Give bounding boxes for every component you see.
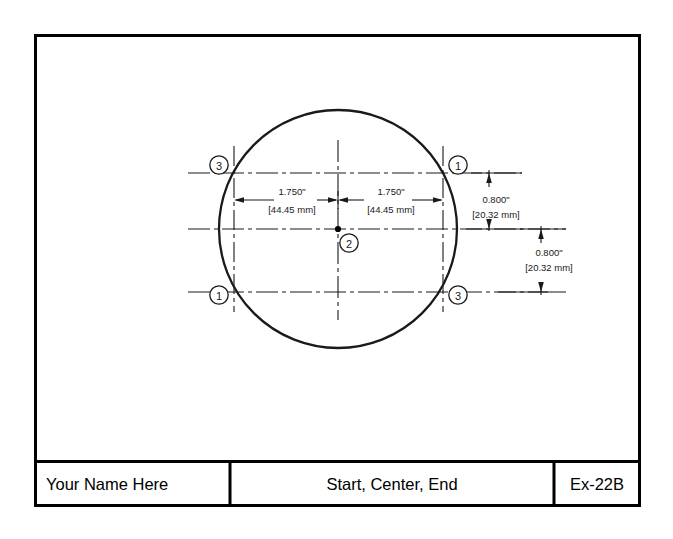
callout-top-right-label: 1 [455, 160, 461, 172]
callout-bottom-left: 1 [210, 286, 228, 304]
callout-top-left: 3 [210, 156, 228, 174]
callout-bottom-right-label: 3 [455, 290, 461, 302]
dim-lower-inch-label: 0.800" [535, 247, 562, 258]
callout-bottom-left-label: 1 [216, 290, 222, 302]
dim-left-inch-label: 1.750" [278, 186, 305, 197]
callout-center: 2 [340, 234, 358, 252]
callout-top-left-label: 3 [216, 160, 222, 172]
title-block-drawing-number-field: Ex-22B [570, 475, 624, 493]
title-block-description-field: Start, Center, End [326, 475, 457, 493]
dim-right-inch-label: 1.750" [377, 186, 404, 197]
dim-left-metric-label: [44.45 mm] [268, 204, 316, 215]
dim-right-metric-label: [44.45 mm] [367, 204, 415, 215]
callout-top-right: 1 [449, 156, 467, 174]
center-point-marker [335, 226, 341, 232]
callout-bottom-right: 3 [449, 286, 467, 304]
dim-upper-inch-label: 0.800" [482, 194, 509, 205]
dim-upper-metric-label: [20.32 mm] [472, 209, 520, 220]
dim-lower-metric-label: [20.32 mm] [525, 262, 573, 273]
title-block-name-field: Your Name Here [46, 475, 168, 493]
drawing-canvas: 1.750" [44.45 mm] 1.750" [44.45 mm] 0.80… [0, 0, 673, 539]
callout-center-label: 2 [346, 238, 352, 250]
